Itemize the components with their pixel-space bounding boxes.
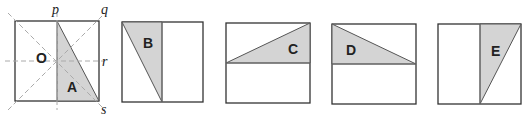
shape-label-d: D [346,42,356,58]
panel-c: C [226,23,310,103]
panel-b: B [122,22,203,102]
shape-label-c: C [288,41,298,57]
axis-s-label: s [101,102,107,117]
transformation-diagram: p q r s O A B C D E [0,0,526,118]
shape-label-e: E [491,43,500,59]
axis-p-label: p [51,2,59,17]
center-label-o: O [36,50,47,66]
shape-label-a: A [67,79,77,95]
panel-d: D [332,24,416,104]
panel-e: E [438,24,521,104]
axis-q-label: q [101,2,108,17]
panel-original: p q r s O A [5,2,108,117]
shape-label-b: B [143,35,153,51]
axis-r-label: r [102,54,108,69]
